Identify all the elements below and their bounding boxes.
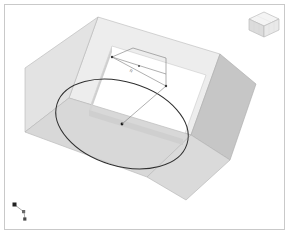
dimension-vertex-end[interactable] [165,85,167,87]
view-cube-graphic[interactable] [246,9,282,41]
axis-origin-marker[interactable] [13,203,17,207]
axis-node-y[interactable] [23,217,26,220]
axis-node-x[interactable] [22,210,25,213]
cad-viewport[interactable]: R [0,0,289,234]
axis-triad-graphic[interactable] [10,199,36,225]
dimension-vertex-mid[interactable] [138,65,140,67]
dimension-vertex-origin[interactable] [111,56,113,58]
coordinate-axis-triad[interactable] [10,199,36,225]
view-cube[interactable] [246,9,282,41]
